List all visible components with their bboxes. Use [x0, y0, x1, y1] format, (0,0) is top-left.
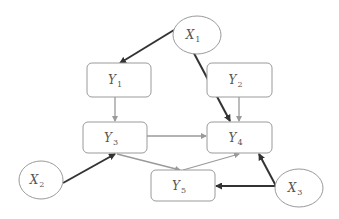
node-y2: Y2	[207, 63, 272, 97]
node-x1: X1	[173, 16, 221, 54]
node-y3: Y3	[83, 122, 147, 153]
edge-y5-to-y4	[183, 154, 239, 170]
node-x2: X2	[19, 161, 63, 199]
edge-y3-to-y5	[117, 154, 180, 170]
node-y5: Y5	[151, 170, 215, 201]
edge-x2-to-y3	[63, 154, 115, 183]
node-x3: X3	[275, 169, 323, 207]
path-diagram: X1X2X3Y1Y2Y3Y4Y5	[0, 0, 339, 219]
edges-layer	[63, 30, 276, 186]
edge-x1-to-y1	[120, 30, 174, 63]
node-y1: Y1	[87, 63, 151, 97]
edge-x3-to-y4	[259, 154, 276, 186]
nodes-layer: X1X2X3Y1Y2Y3Y4Y5	[19, 16, 323, 207]
node-y4: Y4	[207, 122, 272, 153]
